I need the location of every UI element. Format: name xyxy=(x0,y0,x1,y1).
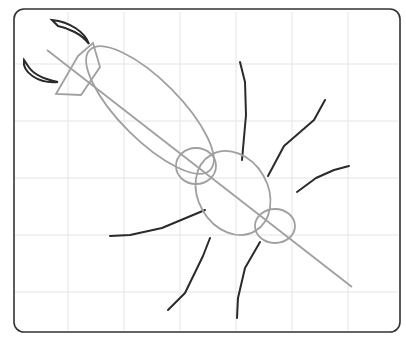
head xyxy=(56,43,100,95)
thorax xyxy=(181,137,286,248)
frame xyxy=(14,9,400,332)
body xyxy=(47,29,352,287)
guide-line xyxy=(47,50,352,287)
legs xyxy=(110,62,349,318)
mandibles xyxy=(24,20,89,82)
grid xyxy=(15,12,398,330)
drawing-canvas xyxy=(0,0,406,364)
abdomen xyxy=(69,29,232,192)
